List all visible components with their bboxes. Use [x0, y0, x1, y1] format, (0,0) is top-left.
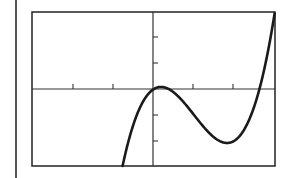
function-graph [0, 0, 285, 178]
